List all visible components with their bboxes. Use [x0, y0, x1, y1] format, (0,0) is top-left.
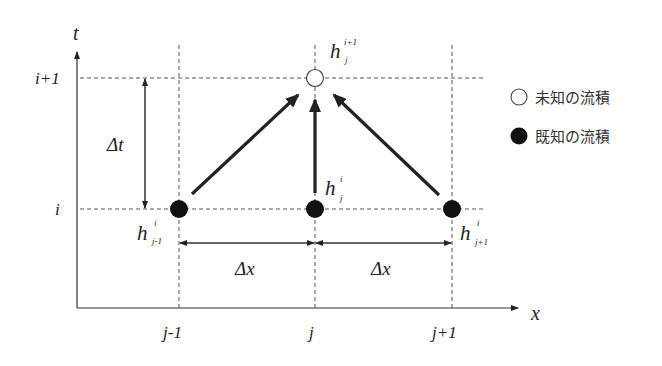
- legend: 未知の流積 既知の流積: [511, 89, 611, 146]
- svg-text:j: j: [344, 55, 348, 65]
- legend-open-circle-icon: [511, 89, 527, 105]
- t-axis-label: t: [73, 22, 79, 44]
- legend-filled-circle-icon: [511, 128, 528, 145]
- svg-text:i: i: [154, 218, 157, 228]
- svg-text:j: j: [339, 193, 343, 203]
- arrow-right-to-top: [334, 95, 439, 195]
- svg-text:j+1: j+1: [474, 237, 488, 247]
- col-label-center: j: [307, 323, 314, 342]
- legend-label-known: 既知の流積: [535, 128, 610, 146]
- dependency-arrows: [192, 95, 439, 195]
- label-h-left: h i j-1: [137, 218, 162, 246]
- svg-text:i+1: i+1: [344, 37, 357, 47]
- known-node-right: [443, 200, 461, 218]
- col-label-left: j-1: [161, 323, 182, 342]
- row-label-upper: i+1: [35, 69, 60, 88]
- svg-text:i: i: [477, 218, 480, 228]
- grid-lines: [80, 45, 486, 308]
- svg-text:j-1: j-1: [151, 236, 162, 246]
- x-axis-label: x: [530, 302, 540, 324]
- dx-label-right: Δx: [370, 258, 391, 279]
- dt-label: Δt: [106, 134, 124, 155]
- label-h-center: h i j: [325, 174, 343, 203]
- row-label-lower: i: [55, 200, 60, 219]
- legend-label-unknown: 未知の流積: [535, 89, 610, 107]
- known-node-left: [170, 200, 188, 218]
- svg-text:i: i: [340, 174, 343, 184]
- svg-text:h: h: [137, 221, 148, 245]
- svg-text:h: h: [325, 176, 336, 200]
- svg-text:h: h: [330, 39, 341, 63]
- label-h-top: h i+1 j: [330, 37, 357, 65]
- arrow-left-to-top: [192, 95, 298, 194]
- finite-difference-diagram: t x i+1 i j-1 j j+1 Δt Δx Δx h i+1 j h i…: [0, 0, 662, 366]
- dx-label-left: Δx: [234, 258, 255, 279]
- known-node-center: [306, 200, 324, 218]
- col-label-right: j+1: [430, 323, 457, 342]
- label-h-right: h i j+1: [460, 218, 488, 247]
- unknown-node: [307, 70, 324, 87]
- svg-text:h: h: [460, 221, 471, 245]
